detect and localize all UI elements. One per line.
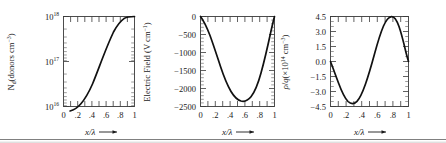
panel-rhoq-ytick-m30: −3.0 <box>311 87 326 97</box>
panel-rhoq-ytick-15: 1.5 <box>315 42 326 52</box>
panel-rhoq-ytick-00: 0.0 <box>315 57 326 67</box>
panel-efield-xtick-08: .8 <box>257 110 263 120</box>
panel-efield-xtick-0: 0 <box>198 110 202 120</box>
panel-rhoq-xtick-06: .6 <box>374 110 380 120</box>
panel-nd-xtick-04: .4 <box>89 110 96 120</box>
panel-efield-ylabel: Electric Field (V cm−1) <box>142 22 152 101</box>
panel-rhoq-xtick-0: 0 <box>328 110 332 120</box>
panel-rhoq-xtick-1: 1 <box>406 110 410 120</box>
panel-efield-xtick-06: .6 <box>242 110 248 120</box>
panel-efield-ytick-m1500: −1500 <box>174 66 196 76</box>
figure-svg: Nd(donors cm−3) 1018 1017 1016 <box>0 0 446 143</box>
panel-efield-ytick-m2000: −2000 <box>174 84 196 94</box>
panel-rhoq-ytick-45: 4.5 <box>315 12 326 22</box>
panel-nd-xlabel-text: x/λ <box>84 127 95 137</box>
panel-nd-xtick-0: 0 <box>61 110 65 120</box>
panel-efield-xtick-1: 1 <box>272 110 276 120</box>
panel-nd-xtick-06: .6 <box>103 110 109 120</box>
panel-rhoq-ytick-30: 3.0 <box>315 27 326 37</box>
panel-efield-ytick-m500: −500 <box>178 30 196 40</box>
panel-efield-ylabel-text: Electric Field (V cm−1) <box>142 22 152 101</box>
panel-rhoq-xtick-02: .2 <box>343 110 349 120</box>
rhoq-close: ) <box>280 35 290 38</box>
ef-text: Electric Field (V cm <box>142 31 152 102</box>
panel-efield-xtick-04: .4 <box>227 110 234 120</box>
panel-efield-xtick-02: .2 <box>212 110 218 120</box>
nd-units: (donors cm <box>6 42 16 81</box>
panel-nd-xtick-08: .8 <box>117 110 123 120</box>
ef-close: ) <box>142 22 152 25</box>
panel-efield-ytick-m2500: −2500 <box>174 102 196 112</box>
panel-nd-xtick-02: .2 <box>75 110 81 120</box>
panel-rhoq-xtick-04: .4 <box>359 110 366 120</box>
panel-rhoq-xtick-08: .8 <box>390 110 396 120</box>
panel-rhoq-ytick-m45: −4.5 <box>311 102 326 112</box>
panel-rhoq-ytick-m15: −1.5 <box>311 72 326 82</box>
rhoq-tail: cm <box>280 43 290 56</box>
figure-container: Nd(donors cm−3) 1018 1017 1016 <box>0 0 446 143</box>
panel-rhoq-xlabel-text: x/λ <box>353 127 364 137</box>
nd-units-close: ) <box>6 33 16 36</box>
panel-nd-xtick-1: 1 <box>132 110 136 120</box>
panel-efield-ytick-0: 0 <box>192 12 196 22</box>
panel-efield-xlabel-text: x/λ <box>221 127 232 137</box>
rhoq-units: (×10 <box>280 62 290 78</box>
panel-efield-ytick-m1000: −1000 <box>174 48 196 58</box>
